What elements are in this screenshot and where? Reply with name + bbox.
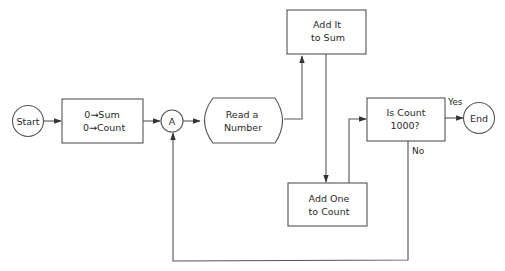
read-number-node: Read a Number <box>205 98 283 143</box>
read-line2: Number <box>224 122 262 133</box>
start-label: Start <box>16 116 39 127</box>
add-count-line1: Add One <box>309 193 350 204</box>
add-sum-line2: to Sum <box>311 32 345 43</box>
connector-a-node: A <box>161 110 183 132</box>
end-node: End <box>464 103 495 134</box>
init-node: 0→Sum 0→Count <box>62 99 143 143</box>
add-sum-node: Add It to Sum <box>287 10 366 54</box>
flowchart-canvas: Start 0→Sum 0→Count A Read a Number Add … <box>0 0 505 271</box>
connector-a-label: A <box>169 116 176 127</box>
add-sum-line1: Add It <box>313 19 341 30</box>
decision-line1: Is Count <box>387 107 426 118</box>
add-count-node: Add One to Count <box>288 183 367 226</box>
end-label: End <box>470 113 488 124</box>
edge-addcount-decision <box>349 119 366 183</box>
decision-node: Is Count 1000? <box>367 98 445 141</box>
yes-label: Yes <box>447 97 463 107</box>
init-line2: 0→Count <box>83 122 125 133</box>
decision-line2: 1000? <box>390 120 419 131</box>
init-line1: 0→Sum <box>84 109 119 120</box>
add-count-line2: to Count <box>309 206 350 217</box>
read-line1: Read a <box>226 109 259 120</box>
start-node: Start <box>13 106 44 137</box>
no-label: No <box>412 146 425 156</box>
edge-read-addsum <box>284 56 302 119</box>
